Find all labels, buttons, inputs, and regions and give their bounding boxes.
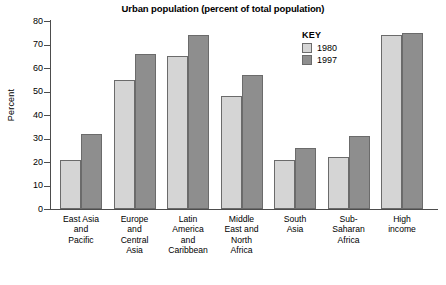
x-axis-category-label: Highincome bbox=[373, 214, 431, 235]
y-axis-tick bbox=[44, 92, 50, 93]
y-axis-tick bbox=[44, 209, 50, 210]
y-axis-tick-label: 30 bbox=[1, 134, 43, 143]
bar-1997-3 bbox=[242, 75, 263, 209]
bar-group bbox=[167, 21, 209, 209]
x-axis-category-label: EuropeandCentralAsia bbox=[106, 214, 164, 256]
bar-1980-6 bbox=[381, 35, 402, 209]
y-axis-tick-label: 20 bbox=[1, 158, 43, 167]
y-axis-tick bbox=[44, 115, 50, 116]
bar-1997-0 bbox=[81, 134, 102, 209]
legend-swatch-1997-icon bbox=[302, 55, 312, 65]
y-axis-tick-label: 50 bbox=[1, 87, 43, 96]
legend-title: KEY bbox=[302, 30, 382, 40]
x-axis-line bbox=[50, 209, 438, 210]
bar-1980-1 bbox=[114, 80, 135, 209]
bar-1997-1 bbox=[135, 54, 156, 209]
y-axis-tick-label: 40 bbox=[1, 111, 43, 120]
x-axis-category-label: LatinAmericaandCaribbean bbox=[159, 214, 217, 256]
bar-1997-6 bbox=[402, 33, 423, 209]
chart-legend: KEY 1980 1997 bbox=[302, 30, 382, 67]
y-axis-tick-label: 0 bbox=[1, 205, 43, 214]
bar-1997-5 bbox=[349, 136, 370, 209]
y-axis-tick-label: 10 bbox=[1, 181, 43, 190]
y-axis-tick bbox=[44, 45, 50, 46]
bar-group bbox=[114, 21, 156, 209]
legend-item-1997: 1997 bbox=[302, 55, 382, 65]
x-axis-category-label: East AsiaandPacific bbox=[52, 214, 110, 245]
bar-group bbox=[381, 21, 423, 209]
y-axis-tick bbox=[44, 162, 50, 163]
legend-label-1997: 1997 bbox=[317, 56, 337, 65]
chart-title: Urban population (percent of total popul… bbox=[0, 3, 446, 14]
bar-1980-4 bbox=[274, 160, 295, 209]
y-axis-tick bbox=[44, 139, 50, 140]
x-axis-category-label: Sub-SaharanAfrica bbox=[320, 214, 378, 245]
y-axis-tick bbox=[44, 21, 50, 22]
bar-group bbox=[221, 21, 263, 209]
y-axis-tick-label: 70 bbox=[1, 40, 43, 49]
bar-group bbox=[60, 21, 102, 209]
bar-1980-5 bbox=[328, 157, 349, 209]
legend-item-1980: 1980 bbox=[302, 43, 382, 53]
y-axis-tick-label: 60 bbox=[1, 64, 43, 73]
bar-1980-3 bbox=[221, 96, 242, 209]
legend-swatch-1980-icon bbox=[302, 43, 312, 53]
x-axis-category-label: SouthAsia bbox=[266, 214, 324, 235]
y-axis-tick bbox=[44, 186, 50, 187]
y-axis-tick-label: 80 bbox=[1, 17, 43, 26]
bar-1980-2 bbox=[167, 56, 188, 209]
bar-1997-2 bbox=[188, 35, 209, 209]
chart-figure: Urban population (percent of total popul… bbox=[0, 0, 446, 285]
legend-label-1980: 1980 bbox=[317, 44, 337, 53]
bar-1980-0 bbox=[60, 160, 81, 209]
x-axis-category-label: MiddleEast andNorthAfrica bbox=[213, 214, 271, 256]
y-axis-tick-labels: 01020304050607080 bbox=[0, 0, 43, 285]
bar-1997-4 bbox=[295, 148, 316, 209]
y-axis-tick bbox=[44, 68, 50, 69]
